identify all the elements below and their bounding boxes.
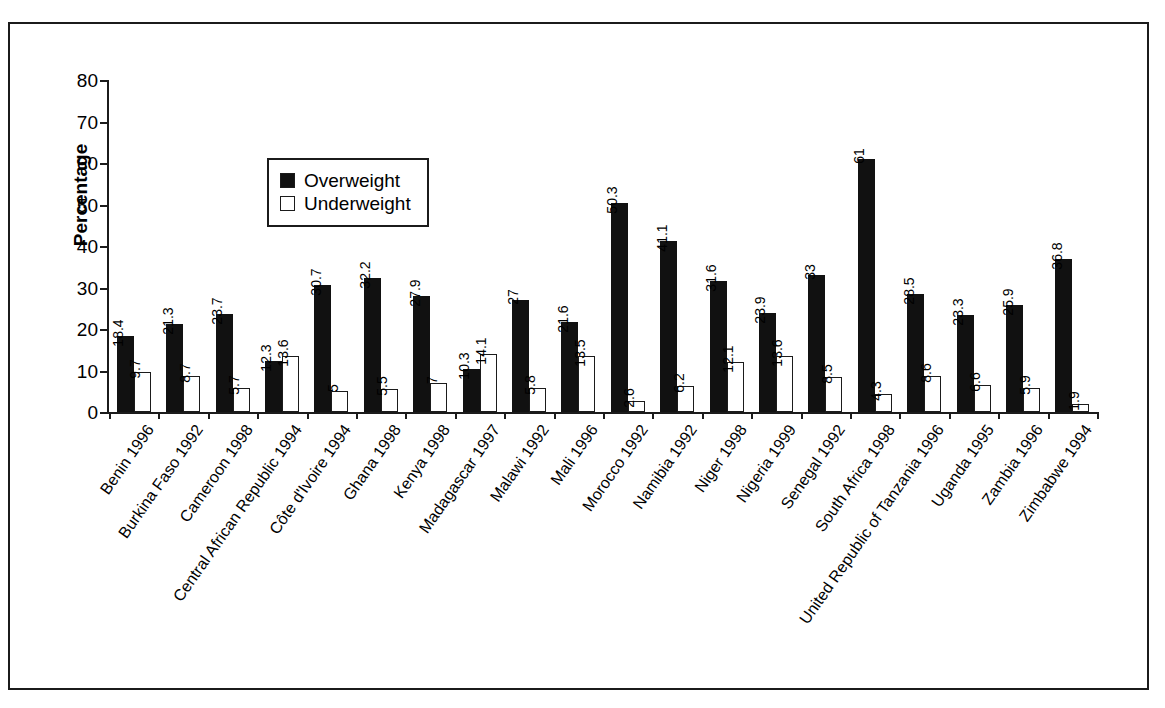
bar-value-label: 8.5 (820, 364, 834, 383)
x-tick-mark (899, 412, 901, 419)
legend-swatch-filled-square-icon (280, 173, 295, 188)
bar-group: 23.913.6 (751, 80, 800, 412)
bar-value-label: 27 (506, 289, 520, 305)
bar-overweight: 23.7 (216, 314, 233, 412)
bar-value-label: 5.9 (1018, 375, 1032, 394)
x-tick-mark (307, 412, 309, 419)
y-tick-label: 60 (77, 154, 98, 173)
bar-group: 614.3 (850, 80, 899, 412)
bar-overweight: 28.5 (907, 294, 924, 412)
bar-value-label: 14.1 (474, 337, 488, 364)
bar-group: 23.75.7 (208, 80, 257, 412)
x-tick-mark (949, 412, 951, 419)
y-tick-mark (100, 80, 107, 82)
bar-value-label: 28.5 (902, 277, 916, 304)
bar-underweight: 6.2 (677, 386, 694, 412)
bar-group: 31.612.1 (702, 80, 751, 412)
bar-value-label: 5 (326, 384, 340, 392)
bar-value-label: 8.6 (919, 364, 933, 383)
bar-overweight: 33 (808, 275, 825, 412)
bar-value-label: 6.2 (672, 374, 686, 393)
bar-group: 10.314.1 (455, 80, 504, 412)
bar-overweight: 21.6 (561, 322, 578, 412)
category-label: Mali 1996 (549, 422, 602, 488)
y-tick-mark (100, 205, 107, 207)
bar-underweight: 12.1 (727, 362, 744, 412)
bar-underweight: 1.9 (1072, 404, 1089, 412)
y-tick-mark (100, 246, 107, 248)
bar-value-label: 10.3 (457, 353, 471, 380)
bar-value-label: 13.5 (573, 339, 587, 366)
chart-legend: Overweight Underweight (267, 158, 429, 227)
bar-value-label: 32.2 (358, 262, 372, 289)
x-tick-mark (455, 412, 457, 419)
x-tick-mark (109, 412, 111, 419)
bar-value-label: 23.7 (210, 297, 224, 324)
x-tick-mark (652, 412, 654, 419)
bar-value-label: 5.7 (227, 376, 241, 395)
bar-underweight: 8.6 (924, 376, 941, 412)
bar-value-label: 27.9 (408, 280, 422, 307)
bar-value-label: 5.8 (523, 375, 537, 394)
bar-value-label: 23.9 (753, 296, 767, 323)
x-tick-mark (554, 412, 556, 419)
bar-group: 50.32.6 (603, 80, 652, 412)
x-tick-mark (998, 412, 1000, 419)
legend-label-overweight: Overweight (304, 171, 400, 190)
bar-value-label: 5.5 (375, 376, 389, 395)
bar-group: 275.8 (504, 80, 553, 412)
x-tick-mark (801, 412, 803, 419)
bar-group: 36.81.9 (1048, 80, 1097, 412)
bar-value-label: 41.1 (655, 225, 669, 252)
x-tick-mark (257, 412, 259, 419)
bar-value-label: 23.3 (951, 299, 965, 326)
legend-item-overweight: Overweight (280, 171, 411, 190)
bar-overweight: 61 (858, 159, 875, 412)
bar-value-label: 12.1 (721, 345, 735, 372)
bar-underweight: 13.6 (776, 356, 793, 412)
bar-value-label: 7 (425, 376, 439, 384)
bar-value-label: 9.7 (128, 359, 142, 378)
bar-value-label: 33 (803, 264, 817, 280)
y-tick-mark (100, 329, 107, 331)
bar-underweight: 9.7 (134, 372, 151, 412)
bar-underweight: 8.5 (825, 377, 842, 412)
bar-value-label: 1.9 (1067, 391, 1081, 410)
bar-underweight: 5.5 (381, 389, 398, 412)
y-tick-label: 10 (77, 361, 98, 380)
scan-bleed-top (0, 0, 1165, 20)
y-tick-mark (100, 288, 107, 290)
bar-value-label: 61 (852, 148, 866, 164)
bar-value-label: 25.9 (1001, 288, 1015, 315)
bar-overweight: 23.3 (957, 315, 974, 412)
bar-underweight: 4.3 (875, 394, 892, 412)
x-tick-mark (158, 412, 160, 419)
bar-group: 32.25.5 (356, 80, 405, 412)
figure-frame: Percentage 01020304050607080 18.49.721.3… (8, 22, 1149, 690)
y-tick-mark (100, 163, 107, 165)
x-tick-mark (356, 412, 358, 419)
bar-group: 21.38.7 (158, 80, 207, 412)
bar-value-label: 36.8 (1050, 243, 1064, 270)
bar-group: 41.16.2 (652, 80, 701, 412)
y-tick-label: 80 (77, 71, 98, 90)
bar-overweight: 25.9 (1006, 305, 1023, 412)
x-tick-mark (1048, 412, 1050, 419)
bar-overweight: 50.3 (611, 203, 628, 412)
bar-overweight: 12.3 (265, 361, 282, 412)
bar-value-label: 8.7 (178, 363, 192, 382)
x-tick-mark (702, 412, 704, 419)
bar-underweight: 6.6 (974, 385, 991, 412)
y-tick-label: 20 (77, 320, 98, 339)
bar-value-label: 21.6 (556, 306, 570, 333)
bar-overweight: 27.9 (413, 296, 430, 412)
bar-group: 21.613.5 (554, 80, 603, 412)
bar-value-label: 50.3 (605, 187, 619, 214)
y-tick-mark (100, 371, 107, 373)
x-tick-mark (1097, 412, 1099, 419)
bar-value-label: 6.6 (968, 372, 982, 391)
bar-groups: 18.49.721.38.723.75.712.313.630.7532.25.… (109, 80, 1097, 412)
legend-item-underweight: Underweight (280, 194, 411, 213)
bar-underweight: 5.8 (529, 388, 546, 412)
bar-underweight: 8.7 (183, 376, 200, 412)
